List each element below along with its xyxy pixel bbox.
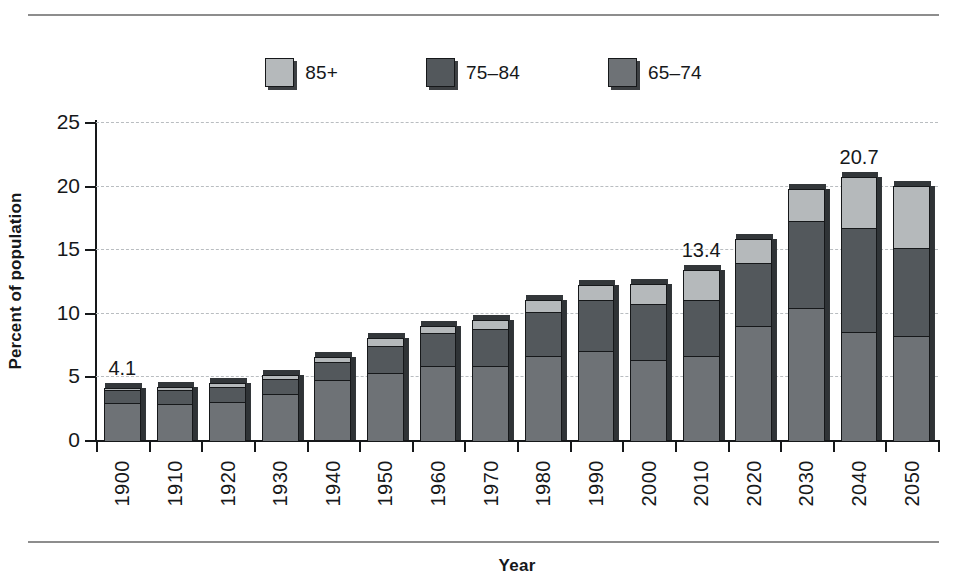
- bar-group-2000: [630, 122, 667, 440]
- legend-swatch-icon: [265, 58, 294, 87]
- bar-stack[interactable]: [262, 375, 299, 440]
- bar-segment-65-74[interactable]: [579, 352, 614, 441]
- bar-shadow: [877, 177, 882, 440]
- bar-top-shadow: [158, 382, 195, 387]
- bar-stack[interactable]: [841, 177, 878, 440]
- legend-item-65-74: 65–74: [608, 58, 702, 87]
- bar-stack[interactable]: [893, 186, 930, 440]
- bar-segment-75-84[interactable]: [579, 301, 614, 352]
- bar-segment-65-74[interactable]: [105, 404, 140, 441]
- bar-segment-75-84[interactable]: [368, 347, 403, 374]
- bar-segment-85-[interactable]: [894, 187, 929, 249]
- bar-segment-85-[interactable]: [473, 321, 508, 330]
- x-tick: [570, 440, 572, 452]
- bar-segment-65-74[interactable]: [368, 374, 403, 441]
- x-tick-label-2020: 2020: [742, 460, 765, 507]
- bar-segment-65-74[interactable]: [210, 403, 245, 441]
- bar-segment-85-[interactable]: [579, 286, 614, 301]
- x-tick: [464, 440, 466, 452]
- x-tick-label-1940: 1940: [321, 460, 344, 507]
- bar-segment-65-74[interactable]: [526, 357, 561, 441]
- bar-segment-85-[interactable]: [789, 190, 824, 222]
- bar-top-shadow: [579, 280, 616, 285]
- bar-segment-75-84[interactable]: [842, 229, 877, 333]
- x-tick-label-1900: 1900: [111, 460, 134, 507]
- bar-stack[interactable]: [525, 300, 562, 440]
- bar-segment-65-74[interactable]: [631, 361, 666, 441]
- bar-segment-75-84[interactable]: [105, 391, 140, 404]
- bottom-divider-rule: [28, 541, 939, 543]
- bar-segment-75-84[interactable]: [473, 330, 508, 367]
- bar-stack[interactable]: [578, 285, 615, 440]
- bar-segment-85-[interactable]: [368, 339, 403, 347]
- bar-segment-75-84[interactable]: [263, 380, 298, 395]
- bar-segment-85-[interactable]: [684, 271, 719, 302]
- x-tick: [833, 440, 835, 452]
- bar-segment-75-84[interactable]: [210, 388, 245, 403]
- bar-segment-65-74[interactable]: [736, 327, 771, 441]
- x-axis-title: Year: [498, 556, 535, 575]
- bar-stack[interactable]: [735, 239, 772, 440]
- bar-segment-75-84[interactable]: [684, 301, 719, 357]
- legend-swatch-icon: [608, 58, 637, 87]
- bar-shadow: [825, 189, 830, 440]
- bar-group-2010: [683, 122, 720, 440]
- bar-segment-75-84[interactable]: [894, 249, 929, 337]
- bar-stack[interactable]: [367, 338, 404, 440]
- x-tick: [96, 440, 98, 452]
- bar-stack[interactable]: [104, 388, 141, 440]
- bar-stack[interactable]: [788, 189, 825, 440]
- bar-segment-65-74[interactable]: [894, 337, 929, 441]
- bar-segment-65-74[interactable]: [473, 367, 508, 441]
- bar-segment-85-[interactable]: [526, 301, 561, 312]
- bar-segment-65-74[interactable]: [421, 367, 456, 441]
- bar-segment-85-[interactable]: [421, 327, 456, 335]
- bar-stack[interactable]: [420, 326, 457, 440]
- bar-segment-65-74[interactable]: [263, 395, 298, 441]
- x-tick-label-1980: 1980: [532, 460, 555, 507]
- bar-shadow: [930, 186, 935, 440]
- bar-stack[interactable]: [314, 357, 351, 440]
- x-tick-label-2010: 2010: [690, 460, 713, 507]
- bar-stack[interactable]: [630, 284, 667, 440]
- bar-segment-75-84[interactable]: [736, 264, 771, 326]
- bar-segment-65-74[interactable]: [789, 309, 824, 441]
- bar-shadow: [772, 239, 777, 440]
- y-tick-label: 15: [57, 237, 80, 261]
- x-tick: [622, 440, 624, 452]
- bar-stack[interactable]: [472, 320, 509, 440]
- bar-segment-75-84[interactable]: [315, 363, 350, 381]
- bar-stack[interactable]: [683, 270, 720, 440]
- bar-shadow: [509, 320, 514, 440]
- y-tick-label: 10: [57, 300, 80, 324]
- bar-group-1910: [157, 122, 194, 440]
- bar-group-1990: [578, 122, 615, 440]
- x-tick: [307, 440, 309, 452]
- bar-segment-85-[interactable]: [631, 285, 666, 305]
- bar-segment-75-84[interactable]: [158, 391, 193, 405]
- x-tick: [938, 440, 940, 452]
- x-tick: [517, 440, 519, 452]
- bar-top-shadow: [105, 383, 142, 388]
- bar-segment-65-74[interactable]: [158, 405, 193, 441]
- bar-segment-75-84[interactable]: [789, 222, 824, 308]
- bar-group-1950: [367, 122, 404, 440]
- chart-plot-area: Percent of population 0510152025 4.113.4…: [96, 122, 938, 440]
- legend-item-85-: 85+: [265, 58, 338, 87]
- bar-top-shadow: [526, 295, 563, 300]
- bar-segment-75-84[interactable]: [526, 313, 561, 358]
- bar-segment-65-74[interactable]: [684, 357, 719, 441]
- bar-stack[interactable]: [209, 383, 246, 440]
- bar-group-2040: [841, 122, 878, 440]
- y-tick: [85, 249, 96, 251]
- bar-segment-75-84[interactable]: [631, 305, 666, 361]
- bar-stack[interactable]: [157, 387, 194, 440]
- bar-segment-75-84[interactable]: [421, 334, 456, 367]
- bar-segment-65-74[interactable]: [315, 381, 350, 440]
- bar-top-shadow: [736, 234, 773, 239]
- bar-segment-65-74[interactable]: [842, 333, 877, 441]
- y-tick: [85, 440, 96, 442]
- bar-segment-85-[interactable]: [842, 178, 877, 229]
- bar-segment-85-[interactable]: [736, 240, 771, 264]
- bar-top-shadow: [684, 265, 721, 270]
